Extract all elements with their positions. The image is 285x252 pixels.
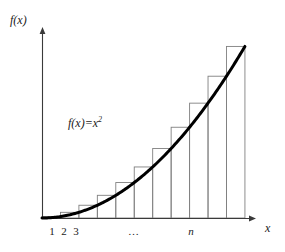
- riemann-rectangle: [171, 127, 189, 218]
- y-axis-label: f(x): [10, 14, 27, 26]
- riemann-rectangles: [42, 46, 245, 218]
- function-annotation: f(x)=x2: [68, 117, 102, 129]
- figure-canvas: [0, 0, 285, 252]
- x-tick-label: n: [181, 226, 201, 237]
- riemann-sum-figure: f(x) x f(x)=x2 123…n: [0, 0, 285, 252]
- riemann-rectangle: [190, 103, 208, 218]
- x-tick-label: 3: [66, 226, 86, 237]
- y-axis-arrow-icon: [40, 27, 46, 34]
- x-axis-label: x: [265, 222, 270, 234]
- x-tick-label: …: [124, 226, 144, 237]
- function-curve: [42, 46, 245, 218]
- x-axis-arrow-icon: [249, 216, 256, 222]
- function-annotation-exponent: 2: [98, 115, 102, 124]
- function-annotation-base: f(x)=x: [68, 116, 98, 130]
